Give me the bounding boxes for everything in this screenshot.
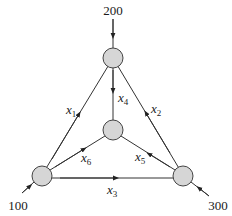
label-x1: x1 — [65, 102, 76, 119]
label-x2: x2 — [150, 101, 161, 118]
node-center — [103, 120, 123, 140]
inflow-bottom-left-label: 100 — [8, 198, 28, 213]
edge-x2 — [113, 58, 183, 175]
outflow-bottom-right-label: 300 — [208, 198, 228, 213]
flow-network-diagram: 200 100 300 x1 x2 x3 x4 x5 x6 — [0, 0, 232, 216]
node-bottom-left — [32, 166, 52, 186]
node-bottom-right — [173, 166, 193, 186]
edge-x6 — [42, 131, 113, 175]
label-x6: x6 — [80, 150, 92, 167]
label-x4: x4 — [117, 90, 129, 107]
label-x5: x5 — [134, 149, 146, 166]
edge-x1 — [42, 58, 113, 175]
inflow-bottom-left-edge — [22, 182, 34, 193]
inflow-top-label: 200 — [103, 3, 123, 18]
outflow-bottom-right-edge — [191, 182, 209, 196]
label-x3: x3 — [106, 182, 118, 199]
node-top — [103, 48, 123, 68]
edge-x5 — [113, 131, 183, 175]
